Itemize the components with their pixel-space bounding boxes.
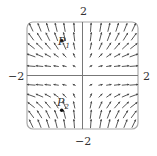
axis-label-left: −2 [8,71,24,82]
point-label-p2: P2 [57,97,69,111]
axis-label-right: 2 [143,71,150,82]
point-label-p1: P1 [58,36,70,50]
axis-label-top: 2 [80,6,87,17]
axis-label-bottom: −2 [75,136,91,147]
